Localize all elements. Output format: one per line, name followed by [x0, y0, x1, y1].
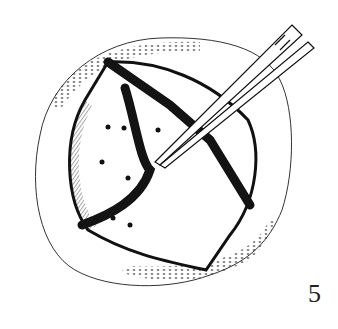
figure-number: 5: [308, 281, 321, 307]
surgical-drawing: [0, 0, 338, 329]
illustration: 5: [0, 0, 338, 329]
